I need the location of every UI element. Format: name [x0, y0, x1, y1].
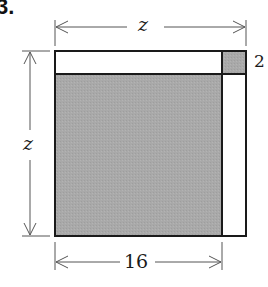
- bottom-width-label: 16: [124, 252, 148, 271]
- top-width-label: z: [138, 15, 148, 34]
- shaded-small-square: [222, 51, 246, 74]
- small-side-label: 2: [254, 53, 265, 70]
- left-height-label: z: [23, 134, 33, 153]
- square-diagram: [0, 0, 268, 287]
- shaded-large-square: [55, 74, 222, 236]
